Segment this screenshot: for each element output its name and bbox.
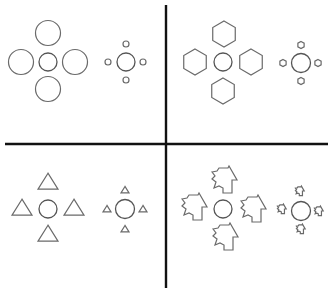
illusion-figure xyxy=(0,0,332,290)
